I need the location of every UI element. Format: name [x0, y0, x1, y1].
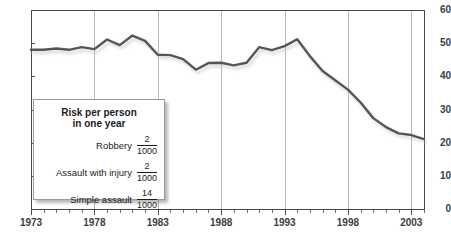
legend-rate-numerator: 14: [137, 189, 157, 200]
right-axis-line: [424, 10, 425, 210]
legend-title: Risk per person in one year: [34, 100, 164, 129]
x-tick-1982: [145, 210, 146, 213]
figure-caption: [26, 233, 446, 241]
legend-row-label: Assault with injury: [56, 167, 132, 178]
x-tick-1996: [323, 210, 324, 213]
x-tick-1973: [31, 210, 32, 215]
y-tick-label-50: 50: [427, 38, 451, 47]
x-tick-label-1978: 1978: [69, 217, 119, 228]
x-tick-1981: [132, 210, 133, 213]
x-tick-1985: [183, 210, 184, 213]
legend-row: Robbery21000: [34, 135, 164, 156]
gridline-1988: [221, 11, 222, 209]
x-tick-1986: [196, 210, 197, 213]
x-tick-1983: [158, 210, 159, 215]
y-tick-label-60: 60: [427, 5, 451, 14]
x-tick-1990: [247, 210, 248, 213]
x-tick-label-1973: 1973: [6, 217, 56, 228]
x-tick-1999: [361, 210, 362, 213]
x-tick-2004: [424, 210, 425, 213]
x-tick-1974: [44, 210, 45, 213]
legend-title-line1: Risk per person: [38, 107, 160, 118]
top-axis-line: [31, 10, 425, 11]
x-tick-1976: [69, 210, 70, 213]
gridline-1998: [348, 11, 349, 209]
y-tick-mark-40: [31, 76, 35, 77]
x-tick-1991: [259, 210, 260, 213]
x-tick-2002: [399, 210, 400, 213]
x-tick-label-2003: 2003: [386, 217, 436, 228]
y-tick-mark-60: [31, 10, 35, 11]
x-tick-1997: [335, 210, 336, 213]
legend-row-rate: 21000: [137, 162, 157, 183]
x-tick-label-1988: 1988: [196, 217, 246, 228]
legend-title-line2: in one year: [38, 118, 160, 129]
y-tick-label-30: 30: [427, 105, 451, 114]
x-tick-1989: [234, 210, 235, 213]
x-tick-1979: [107, 210, 108, 213]
legend-row: Simple assault141000: [34, 189, 164, 210]
x-tick-1977: [82, 210, 83, 213]
x-tick-1995: [310, 210, 311, 213]
legend-row-rate: 141000: [137, 189, 157, 210]
x-tick-2001: [386, 210, 387, 213]
gridline-1993: [285, 11, 286, 209]
x-tick-1992: [272, 210, 273, 213]
gridline-2003: [411, 11, 412, 209]
legend-row-label: Robbery: [96, 140, 132, 151]
legend-box: Risk per person in one year Robbery21000…: [33, 99, 165, 200]
legend-row: Assault with injury21000: [34, 162, 164, 183]
x-tick-1984: [170, 210, 171, 213]
x-tick-2003: [411, 210, 412, 215]
legend-rate-denominator: 1000: [137, 146, 157, 156]
legend-rate-numerator: 2: [137, 135, 157, 146]
x-tick-1987: [208, 210, 209, 213]
y-tick-label-10: 10: [427, 171, 451, 180]
x-tick-1998: [348, 210, 349, 215]
x-tick-1993: [285, 210, 286, 215]
x-tick-1994: [297, 210, 298, 213]
x-tick-1980: [120, 210, 121, 213]
x-tick-1978: [94, 210, 95, 215]
x-tick-1975: [56, 210, 57, 213]
x-tick-2000: [373, 210, 374, 213]
x-tick-label-1998: 1998: [323, 217, 373, 228]
x-tick-label-1993: 1993: [260, 217, 310, 228]
y-tick-label-40: 40: [427, 71, 451, 80]
legend-row-label: Simple assault: [70, 194, 132, 205]
legend-rate-denominator: 1000: [137, 173, 157, 183]
y-tick-mark-50: [31, 43, 35, 44]
x-tick-label-1983: 1983: [133, 217, 183, 228]
legend-row-rate: 21000: [137, 135, 157, 156]
y-tick-label-0: 0: [427, 204, 451, 213]
y-tick-label-20: 20: [427, 138, 451, 147]
x-tick-1988: [221, 210, 222, 215]
legend-rate-denominator: 1000: [137, 200, 157, 210]
legend-rows: Robbery21000Assault with injury21000Simp…: [34, 135, 164, 210]
chart-figure: 0102030405060 19731978198319881993199820…: [0, 0, 451, 241]
legend-rate-numerator: 2: [137, 162, 157, 173]
